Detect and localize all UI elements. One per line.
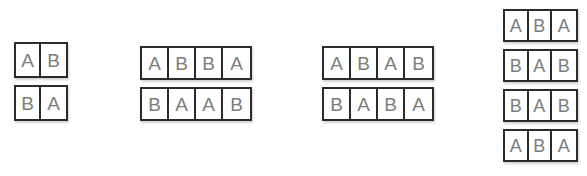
letter-cell: B	[529, 11, 553, 40]
letter-cell: B	[405, 48, 432, 78]
letter-grid-row: A B	[14, 42, 68, 78]
letter-grid-row: B A B	[503, 49, 578, 82]
letter-cell: A	[505, 11, 529, 40]
letter-cell: A	[552, 131, 576, 160]
letter-cell: A	[41, 87, 66, 119]
figure-canvas: A B B A A B B A B A A B A B A B B	[0, 0, 587, 176]
letter-grid-group-2: A B B A B A A B	[140, 46, 252, 121]
letter-cell: A	[529, 91, 553, 120]
letter-cell: B	[169, 48, 196, 78]
letter-cell: A	[16, 44, 41, 76]
letter-cell: B	[378, 89, 405, 119]
letter-grid-row: A B A	[503, 9, 578, 42]
letter-cell: B	[16, 87, 41, 119]
letter-grid-group-4: A B A B A B B A B A B A	[503, 9, 578, 162]
letter-cell: B	[552, 91, 576, 120]
letter-grid-row: B A B	[503, 89, 578, 122]
letter-cell: B	[196, 48, 223, 78]
letter-cell: B	[505, 91, 529, 120]
letter-cell: B	[223, 89, 250, 119]
letter-cell: B	[324, 89, 351, 119]
letter-cell: A	[196, 89, 223, 119]
letter-cell: A	[142, 48, 169, 78]
letter-grid-row: B A A B	[140, 87, 252, 121]
letter-cell: B	[142, 89, 169, 119]
letter-grid-row: B A	[14, 85, 68, 121]
letter-grid-row: A B A B	[322, 46, 434, 80]
letter-cell: B	[351, 48, 378, 78]
letter-grid-row: A B B A	[140, 46, 252, 80]
letter-cell: A	[505, 131, 529, 160]
letter-cell: A	[324, 48, 351, 78]
letter-cell: A	[405, 89, 432, 119]
letter-grid-row: B A B A	[322, 87, 434, 121]
letter-grid-row: A B A	[503, 129, 578, 162]
letter-cell: A	[223, 48, 250, 78]
letter-cell: B	[505, 51, 529, 80]
letter-cell: B	[529, 131, 553, 160]
letter-grid-group-1: A B B A	[14, 42, 68, 121]
letter-cell: A	[378, 48, 405, 78]
letter-cell: A	[351, 89, 378, 119]
letter-grid-group-3: A B A B B A B A	[322, 46, 434, 121]
letter-cell: A	[169, 89, 196, 119]
letter-cell: A	[529, 51, 553, 80]
letter-cell: A	[552, 11, 576, 40]
letter-cell: B	[41, 44, 66, 76]
letter-cell: B	[552, 51, 576, 80]
